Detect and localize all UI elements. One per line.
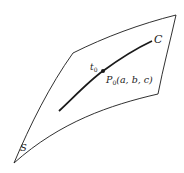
point-p0-marker [101, 69, 105, 73]
surface-label: S [20, 142, 27, 153]
surface-right-edge [158, 15, 176, 94]
surface-bottom-edge [14, 94, 158, 163]
curve-label: C [154, 33, 163, 46]
parameter-subscript: 0 [94, 66, 98, 73]
point-coords: (a, b, c) [116, 74, 153, 85]
point-label: P0(a, b, c) [105, 74, 153, 86]
surface-diagram: C S t0 P0(a, b, c) [0, 0, 184, 173]
parameter-label: t0 [90, 62, 98, 73]
